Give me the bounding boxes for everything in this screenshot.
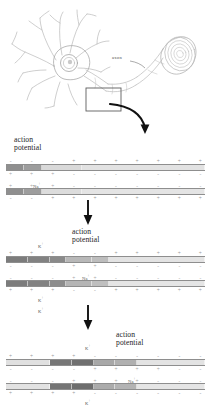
charge-symbol: - [190,263,211,269]
flow-arrow-1 [81,200,95,226]
charge-symbol: + [105,287,126,293]
charge-symbol: + [190,195,211,201]
membrane-segment [94,360,116,365]
callout-curved-arrow [108,100,168,136]
lower-membrane-2 [6,280,205,287]
membrane-segment [6,281,28,286]
ion-charge: + [41,296,43,300]
membrane-panel-1: action potential - - - + + + + + + + + +… [0,136,211,198]
charge-symbol: - [0,263,21,269]
membrane-segment [66,281,92,286]
charge-symbol: + [105,366,126,372]
outer-charge-row-lower-3: + + + + - - - - - - [0,390,211,396]
charge-symbol: - [63,171,84,177]
membrane-segment [66,257,92,262]
potassium-ion-label-lower-2: K+ [38,292,43,303]
charge-symbol: + [0,287,21,293]
charge-symbol: - [190,366,211,372]
charge-symbol: + [169,195,190,201]
charge-symbol: - [127,263,148,269]
charge-symbol: - [84,171,105,177]
charge-symbol: - [148,263,169,269]
action-potential-label-1: action potential [14,136,41,152]
membrane-segment [50,281,66,286]
inner-charge-row-top-2: - - - + + - - - - - [0,263,211,269]
membrane-segment [92,257,110,262]
charge-symbol: + [42,287,63,293]
membrane-segment [72,384,94,389]
upper-membrane-1 [6,164,205,171]
action-potential-label-3: action potential [116,331,143,347]
charge-symbol: - [169,263,190,269]
ion-charge: + [88,399,90,403]
membrane-panel-2: action potential K+ + + + - - + + + + + … [0,228,211,294]
inner-charge-row-top-3: - - - - + + + + - - [0,366,211,372]
charge-symbol: - [42,366,63,372]
membrane-segment [137,360,205,365]
charge-symbol: + [127,366,148,372]
potassium-ion-label-upper-2: K+ [38,238,43,249]
charge-symbol: - [105,263,126,269]
membrane-panel-3: action potential K+ + + + + - - - - - - … [0,331,211,397]
potassium-ion-label-lower-3: K+ [85,395,90,406]
charge-symbol: - [169,171,190,177]
charge-symbol: + [42,195,63,201]
membrane-segment [94,384,116,389]
membrane-segment [6,189,24,194]
inner-charge-row-top-1: + + + - - - - - - - [0,171,211,177]
upper-membrane-3 [6,359,205,366]
charge-symbol: - [169,366,190,372]
membrane-segment [42,189,82,194]
membrane-segment [137,384,205,389]
action-potential-label-2: action potential [72,228,99,244]
membrane-segment [6,257,28,262]
charge-symbol: + [84,263,105,269]
membrane-segment [109,257,205,262]
charge-symbol: + [0,171,21,177]
membrane-segment [115,360,137,365]
charge-symbol: - [190,171,211,177]
membrane-segment [6,360,50,365]
charge-symbol: + [84,366,105,372]
charge-symbol: - [105,171,126,177]
membrane-segment [50,257,66,262]
charge-symbol: + [190,287,211,293]
membrane-segment [28,281,50,286]
charge-symbol: + [148,195,169,201]
charge-symbol: - [63,287,84,293]
membrane-segment [72,360,94,365]
charge-symbol: - [21,366,42,372]
upper-membrane-2 [6,256,205,263]
charge-symbol: + [63,263,84,269]
membrane-segment [6,165,24,170]
charge-symbol: - [0,366,21,372]
charge-symbol: - [63,366,84,372]
membrane-segment [42,165,82,170]
charge-symbol: + [148,366,169,372]
ion-charge: + [88,344,90,348]
charge-symbol: - [148,390,169,396]
charge-symbol: + [42,171,63,177]
membrane-segment [50,360,72,365]
membrane-segment [109,281,205,286]
charge-symbol: - [148,171,169,177]
charge-symbol: - [190,390,211,396]
membrane-segment [28,257,50,262]
charge-symbol: - [127,171,148,177]
charge-symbol: + [148,287,169,293]
membrane-segment [24,165,42,170]
charge-symbol: + [127,195,148,201]
charge-symbol: + [169,287,190,293]
charge-symbol: - [169,390,190,396]
charge-symbol: - [84,287,105,293]
membrane-segment [6,384,50,389]
flow-arrow-2 [81,305,95,331]
membrane-segment [82,165,205,170]
axon-label: axon [112,56,122,61]
charge-symbol: - [42,263,63,269]
potassium-ion-label-above-arrow-3: K+ [38,303,43,314]
membrane-segment [50,384,72,389]
charge-symbol: - [0,195,21,201]
membrane-segment [92,281,110,286]
charge-symbol: + [63,390,84,396]
